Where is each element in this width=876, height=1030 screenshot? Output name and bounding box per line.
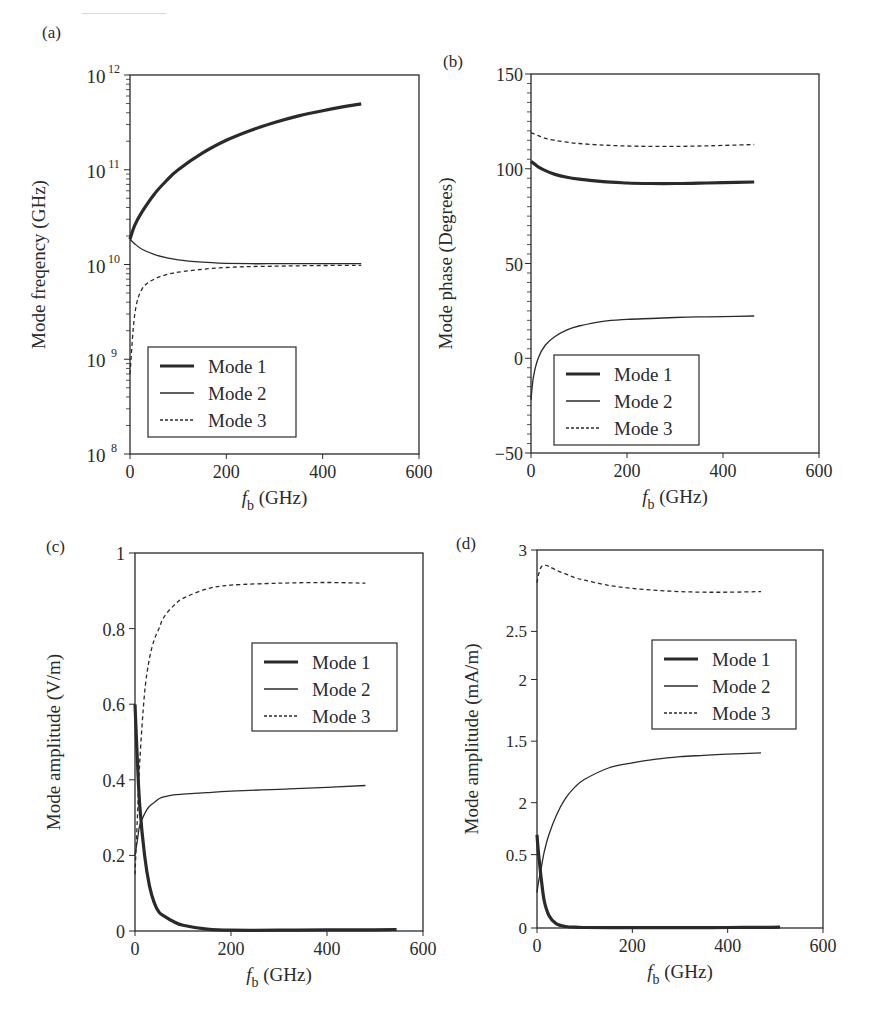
panel-label: (d) <box>456 534 476 553</box>
x-axis-label: fb (GHz) <box>242 487 308 513</box>
x-axis-label-unit: (GHz) <box>254 487 307 509</box>
legend: Mode 1Mode 2Mode 3 <box>652 640 796 729</box>
y-tick-label: 0 <box>519 919 528 938</box>
x-tick-label: 0 <box>533 936 542 956</box>
y-tick-label: 100 <box>496 160 523 180</box>
series-mode-2 <box>130 239 361 264</box>
y-tick-label: 10 <box>87 66 106 87</box>
y-tick-exponent: 10 <box>108 252 120 266</box>
panel-label: (c) <box>46 537 65 556</box>
x-tick-label: 0 <box>527 461 536 481</box>
legend-label-1: Mode 1 <box>614 364 673 385</box>
legend-label-3: Mode 3 <box>208 410 267 431</box>
legend: Mode 1Mode 2Mode 3 <box>252 643 397 731</box>
x-axis-label: fb (GHz) <box>642 486 708 512</box>
legend-label-1: Mode 1 <box>712 649 771 670</box>
legend: Mode 1Mode 2Mode 3 <box>148 347 296 437</box>
y-tick-label: 0 <box>514 349 523 369</box>
series-mode-1 <box>537 835 780 928</box>
legend-label-2: Mode 2 <box>312 679 371 700</box>
legend-label-2: Mode 2 <box>208 383 267 404</box>
y-tick-exponent: 8 <box>111 441 117 455</box>
y-tick-label: 3 <box>519 541 528 560</box>
legend: Mode 1Mode 2Mode 3 <box>554 355 699 445</box>
x-tick-label: 0 <box>126 462 135 482</box>
x-tick-label: 600 <box>810 936 837 956</box>
series-mode-2 <box>537 753 761 893</box>
chart-panel-c: (c)020040060000.20.40.60.81fb (GHz)Mode … <box>43 537 437 990</box>
x-axis-label-unit: (GHz) <box>655 486 708 508</box>
series-mode-3 <box>531 133 754 147</box>
x-axis-label-unit: (GHz) <box>259 964 312 986</box>
legend-label-3: Mode 3 <box>312 706 371 727</box>
x-axis-label-subscript: b <box>247 498 254 513</box>
y-axis-label: Mode freqency (GHz) <box>28 180 50 349</box>
x-axis-label-subscript: b <box>648 497 655 512</box>
x-tick-label: 0 <box>131 939 140 959</box>
series-mode-1 <box>135 704 397 930</box>
y-tick-label: 150 <box>496 65 523 85</box>
y-tick-label: 0.5 <box>506 846 527 865</box>
y-tick-label: −50 <box>495 444 523 464</box>
legend-label-2: Mode 2 <box>614 391 673 412</box>
series-mode-1 <box>130 104 361 239</box>
legend-label-3: Mode 3 <box>614 418 673 439</box>
y-axis-label: Mode amplitude (V/m) <box>43 654 65 830</box>
y-tick-label: 10 <box>87 350 106 371</box>
plot-frame <box>537 550 823 928</box>
x-tick-label: 200 <box>614 461 641 481</box>
y-tick-label: 2 <box>519 794 528 813</box>
x-tick-label: 200 <box>213 462 240 482</box>
x-tick-label: 600 <box>406 462 433 482</box>
plot-frame <box>135 553 423 931</box>
y-tick-label: 10 <box>87 445 106 466</box>
x-tick-label: 400 <box>309 462 336 482</box>
chart-panel-d: (d)020040060000.521.522.53fb (GHz)Mode a… <box>456 534 837 987</box>
x-axis-label-subscript: b <box>653 972 660 987</box>
x-axis-label: fb (GHz) <box>246 964 312 990</box>
figure: (a)0200400600108109101010111012fb (GHz)M… <box>0 0 876 1030</box>
y-tick-label: 1 <box>116 544 125 564</box>
y-tick-exponent: 9 <box>111 346 117 360</box>
y-axis-label: Mode phase (Degrees) <box>435 178 457 350</box>
y-tick-label: 2.5 <box>506 622 527 641</box>
y-tick-label: 10 <box>87 161 106 182</box>
x-tick-label: 400 <box>714 936 741 956</box>
y-tick-label: 0.6 <box>103 695 126 715</box>
legend-label-3: Mode 3 <box>712 703 771 724</box>
y-tick-label: 0.2 <box>103 846 126 866</box>
panel-label: (b) <box>443 52 463 71</box>
x-tick-label: 600 <box>806 461 833 481</box>
panel-label: (a) <box>42 23 61 42</box>
x-tick-label: 200 <box>218 939 245 959</box>
legend-label-1: Mode 1 <box>208 356 267 377</box>
x-tick-label: 400 <box>710 461 737 481</box>
x-axis-label-unit: (GHz) <box>660 961 713 983</box>
y-axis-label: Mode amplitude (mA/m) <box>461 643 483 834</box>
chart-panel-b: (b)0200400600−50050100150fb (GHz)Mode ph… <box>435 52 833 512</box>
x-tick-label: 200 <box>619 936 646 956</box>
y-tick-label: 10 <box>87 256 106 277</box>
series-mode-2 <box>135 786 365 856</box>
y-tick-label: 0 <box>116 922 125 942</box>
series-mode-1 <box>531 161 754 183</box>
x-axis-label-subscript: b <box>252 975 259 990</box>
y-tick-label: 0.4 <box>103 771 126 791</box>
y-tick-label: 50 <box>505 255 523 275</box>
y-tick-label: 0.8 <box>103 620 126 640</box>
legend-label-2: Mode 2 <box>712 676 771 697</box>
x-axis-label: fb (GHz) <box>647 961 713 987</box>
x-tick-label: 600 <box>410 939 437 959</box>
y-tick-label: 1.5 <box>506 732 527 751</box>
x-tick-label: 400 <box>314 939 341 959</box>
y-tick-exponent: 12 <box>108 62 120 76</box>
legend-label-1: Mode 1 <box>312 652 371 673</box>
y-tick-exponent: 11 <box>108 157 120 171</box>
series-mode-3 <box>537 565 761 592</box>
y-tick-label: 2 <box>519 671 528 690</box>
chart-panel-a: (a)0200400600108109101010111012fb (GHz)M… <box>28 23 433 513</box>
